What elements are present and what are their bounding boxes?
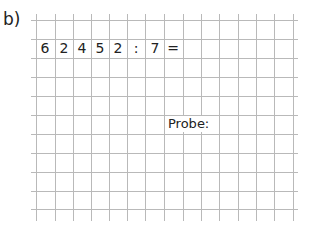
grid-vertical-line <box>219 14 220 221</box>
grid-vertical-line <box>274 14 275 221</box>
digit-cell: 6 <box>36 39 54 57</box>
division-sign-cell: : <box>127 39 145 57</box>
divisor-cell: 7 <box>146 39 164 57</box>
grid-vertical-line <box>293 14 294 221</box>
digit-cell: 5 <box>91 39 109 57</box>
digit-cell: 4 <box>73 39 91 57</box>
grid-vertical-line <box>256 14 257 221</box>
probe-label: Probe: <box>166 116 211 132</box>
squared-paper-grid <box>0 0 317 232</box>
equals-sign-cell: = <box>164 39 182 57</box>
digit-cell: 2 <box>109 39 127 57</box>
digit-cell: 2 <box>55 39 73 57</box>
grid-vertical-line <box>238 14 239 221</box>
